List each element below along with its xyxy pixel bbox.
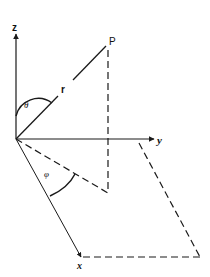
point-label: P bbox=[109, 36, 116, 47]
xy-projection-dashed bbox=[16, 139, 108, 193]
x-axis-label: x bbox=[76, 260, 82, 271]
z-axis-label: z bbox=[12, 22, 17, 33]
theta-label: θ bbox=[24, 100, 29, 110]
phi-label: φ bbox=[44, 169, 49, 179]
x-axis bbox=[16, 139, 81, 257]
radius-line-upper bbox=[73, 46, 106, 80]
y-axis-label: y bbox=[155, 134, 162, 146]
y-parallel-dashed bbox=[139, 143, 200, 257]
phi-arc bbox=[50, 174, 75, 196]
radius-label: r bbox=[61, 84, 65, 95]
spherical-coordinates-diagram: z y x r P θ φ bbox=[0, 0, 210, 277]
